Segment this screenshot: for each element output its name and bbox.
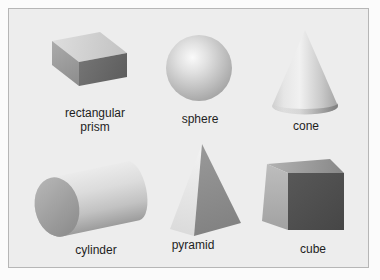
rectangular-prism-shape [52, 32, 127, 86]
sphere-shape [166, 35, 232, 101]
shapes-worksheet-image: rectangular prism sphere cone cylinder p… [0, 0, 380, 280]
cube-shape [262, 159, 344, 230]
pyramid-right-face [194, 144, 241, 236]
cube-front-face [288, 173, 344, 230]
label-cone: cone [293, 119, 319, 133]
cone-shape [272, 30, 338, 115]
label-cylinder: cylinder [75, 243, 116, 257]
cylinder-shape [29, 159, 152, 241]
label-rectangular-prism: rectangular prism [65, 106, 125, 134]
label-rectangular-prism-line1: rectangular [65, 106, 125, 120]
label-rectangular-prism-line2: prism [65, 120, 125, 134]
label-sphere: sphere [182, 112, 219, 126]
cone-body [272, 30, 338, 115]
label-cube: cube [300, 242, 326, 256]
pyramid-shape [170, 144, 241, 236]
label-pyramid: pyramid [172, 238, 215, 252]
cube-left-face [262, 164, 288, 230]
